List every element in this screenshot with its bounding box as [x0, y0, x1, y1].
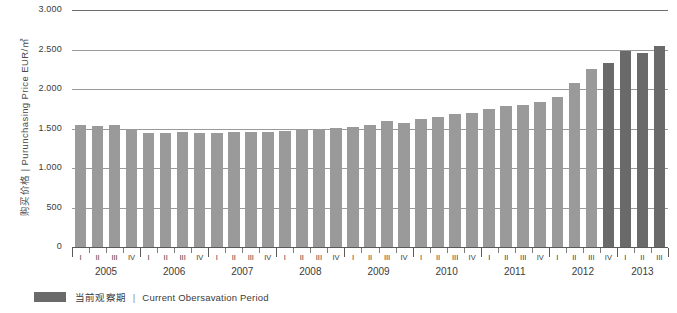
quarter-label-2012-III: III [583, 253, 600, 262]
quarter-label-2007-IV: IV [259, 253, 276, 262]
quarter-label-2010-IV: IV [464, 253, 481, 262]
quarter-label-2010-II: II [430, 253, 447, 262]
bar-2008-IV [330, 128, 342, 247]
legend-separator: | [129, 292, 140, 303]
quarter-label-2005-IV: IV [123, 253, 140, 262]
bar-2010-III [449, 114, 461, 247]
bar-2005-I [75, 125, 87, 247]
bar-2012-III [586, 69, 598, 247]
legend-swatch-current-period [34, 292, 66, 302]
x-tick-end [668, 248, 669, 257]
quarter-label-2013-III: III [651, 253, 668, 262]
bar-2008-II [296, 129, 308, 248]
year-label-2012: 2012 [549, 266, 617, 278]
quarter-label-2012-I: I [549, 253, 566, 262]
quarter-label-2006-I: I [140, 253, 157, 262]
bar-2012-II [569, 83, 581, 247]
bar-2007-I [211, 133, 223, 247]
quarter-label-2013-I: I [617, 253, 634, 262]
y-tick-label-1000: 1.000 [6, 163, 62, 172]
quarter-label-2007-III: III [242, 253, 259, 262]
bar-2012-I [552, 97, 564, 247]
y-tick-label-3000: 3.000 [6, 5, 62, 14]
bar-2009-II [364, 125, 376, 247]
year-label-2006: 2006 [140, 266, 208, 278]
year-label-2005: 2005 [72, 266, 140, 278]
quarter-label-2005-III: III [106, 253, 123, 262]
year-label-2013: 2013 [617, 266, 668, 278]
quarter-label-2005-II: II [89, 253, 106, 262]
quarter-label-2006-III: III [174, 253, 191, 262]
quarter-label-2009-I: I [344, 253, 361, 262]
quarter-label-2006-IV: IV [191, 253, 208, 262]
chart-root: 购买价格 | Purunchasing Price EUR/㎡ 05001.00… [0, 0, 677, 313]
quarter-label-2011-II: II [498, 253, 515, 262]
y-tick-label-2000: 2.000 [6, 84, 62, 93]
bar-2007-II [228, 132, 240, 247]
bar-2006-II [160, 133, 172, 247]
bar-2011-IV [534, 102, 546, 247]
quarter-label-2013-II: II [634, 253, 651, 262]
x-axis-line [72, 247, 668, 248]
bar-2008-III [313, 129, 325, 248]
plot-area [72, 10, 668, 247]
quarter-label-2010-I: I [413, 253, 430, 262]
legend-label: 当前观察期 | Current Obersavation Period [75, 290, 269, 304]
bar-2005-IV [126, 129, 138, 247]
bar-2012-IV [603, 63, 615, 247]
quarter-label-2006-II: II [157, 253, 174, 262]
bar-2006-I [143, 133, 155, 247]
quarter-label-2007-I: I [208, 253, 225, 262]
x-axis: IIIIIIIVIIIIIIIVIIIIIIIVIIIIIIIVIIIIIIIV… [72, 247, 668, 287]
bar-2009-III [381, 121, 393, 247]
year-label-2011: 2011 [481, 266, 549, 278]
quarter-label-2008-II: II [293, 253, 310, 262]
quarter-label-2011-III: III [515, 253, 532, 262]
quarter-label-2011-IV: IV [532, 253, 549, 262]
bar-2008-I [279, 131, 291, 247]
bar-2006-IV [194, 133, 206, 247]
quarter-label-2008-III: III [310, 253, 327, 262]
legend-label-cn: 当前观察期 [75, 292, 126, 303]
y-axis-tick-labels: 05001.0001.5002.0002.5003.000 [0, 10, 62, 247]
year-label-2009: 2009 [344, 266, 412, 278]
y-tick-label-1500: 1.500 [6, 124, 62, 133]
quarter-label-2008-I: I [276, 253, 293, 262]
year-label-2010: 2010 [413, 266, 481, 278]
bar-2013-III [654, 46, 666, 247]
bar-2011-III [517, 105, 529, 247]
y-tick-label-2500: 2.500 [6, 45, 62, 54]
quarter-label-2007-II: II [225, 253, 242, 262]
quarter-label-2005-I: I [72, 253, 89, 262]
quarter-label-2009-IV: IV [396, 253, 413, 262]
quarter-label-2011-I: I [481, 253, 498, 262]
y-tick-label-0: 0 [6, 242, 62, 251]
y-tick-label-500: 500 [6, 203, 62, 212]
bar-2010-IV [466, 113, 478, 247]
bar-2011-II [500, 106, 512, 247]
bar-2005-III [109, 125, 121, 247]
quarter-label-2012-II: II [566, 253, 583, 262]
bar-2005-II [92, 126, 104, 247]
bar-2010-I [415, 119, 427, 247]
quarter-label-2010-III: III [447, 253, 464, 262]
bar-2007-III [245, 132, 257, 247]
bar-2013-I [620, 51, 632, 247]
quarter-label-2009-III: III [379, 253, 396, 262]
bar-2009-I [347, 127, 359, 247]
legend-label-en: Current Obersavation Period [142, 292, 268, 303]
bar-2007-IV [262, 132, 274, 247]
quarter-label-2008-IV: IV [327, 253, 344, 262]
bar-series [72, 10, 668, 247]
year-label-2008: 2008 [276, 266, 344, 278]
legend: 当前观察期 | Current Obersavation Period [34, 290, 269, 304]
quarter-label-2009-II: II [361, 253, 378, 262]
bar-2006-III [177, 132, 189, 247]
bar-2011-I [483, 109, 495, 247]
year-label-2007: 2007 [208, 266, 276, 278]
bar-2010-II [432, 117, 444, 247]
bar-2009-IV [398, 123, 410, 247]
quarter-label-2012-IV: IV [600, 253, 617, 262]
bar-2013-II [637, 53, 649, 247]
